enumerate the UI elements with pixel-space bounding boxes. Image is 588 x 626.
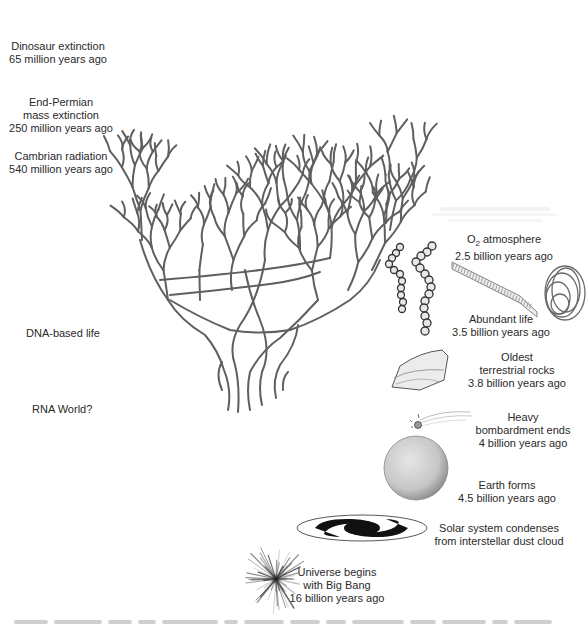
coiled-filament-icon — [545, 266, 585, 320]
label-rna-world: RNA World? — [32, 403, 92, 416]
atmosphere-haze — [432, 207, 557, 222]
label-earth-forms: Earth forms 4.5 billion years ago — [452, 479, 562, 505]
oldest-rock-icon — [392, 350, 448, 390]
label-abundant-life: Abundant life 3.5 billion years ago — [446, 313, 556, 339]
bacteria-chains-icon — [386, 242, 437, 335]
label-dna-based-life: DNA-based life — [26, 327, 100, 340]
label-cambrian-radiation: Cambrian radiation 540 million years ago — [8, 150, 114, 176]
spiral-galaxy-icon — [297, 515, 427, 541]
earth-sphere-icon — [384, 436, 448, 500]
label-big-bang: Universe begins with Big Bang 16 billion… — [282, 566, 392, 605]
figure-caption-illegible — [14, 612, 574, 620]
label-oldest-rocks: Oldest terrestrial rocks 3.8 billion yea… — [462, 351, 572, 390]
comet-icon — [410, 412, 472, 429]
label-end-permian: End-Permian mass extinction 250 million … — [8, 96, 114, 135]
label-o2-atmosphere: O2 atmosphere 2.5 billion years ago — [454, 233, 554, 263]
filament-strip-icon — [452, 262, 537, 317]
label-solar-system: Solar system condenses from interstellar… — [424, 522, 574, 548]
label-dinosaur-extinction: Dinosaur extinction 65 million years ago — [8, 40, 108, 66]
label-heavy-bombardment: Heavy bombardment ends 4 billion years a… — [464, 411, 582, 450]
